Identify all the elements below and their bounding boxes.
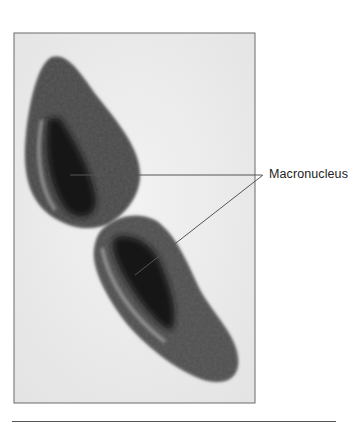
micrograph-figure [0, 0, 359, 425]
macronucleus-label: Macronucleus [269, 167, 348, 181]
divider-rule [12, 421, 336, 422]
